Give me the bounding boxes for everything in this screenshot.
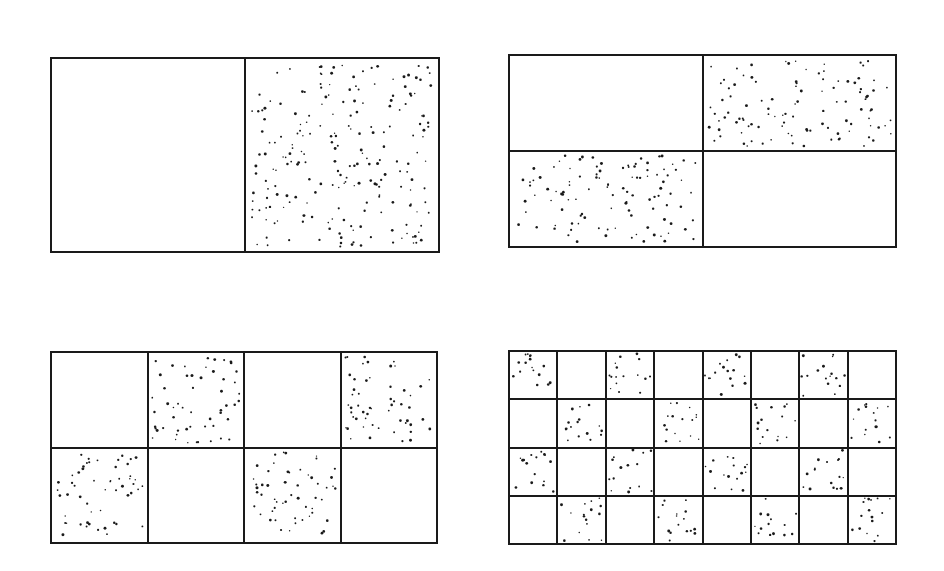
panel-top-left: [50, 57, 440, 253]
panel-bottom-right-canvas: [508, 350, 897, 545]
panel-top-right-canvas: [508, 54, 897, 248]
panel-bottom-left-canvas: [50, 351, 438, 544]
grid-dividers: [509, 55, 896, 247]
panel-bottom-left: [50, 351, 438, 544]
panel-top-left-canvas: [50, 57, 440, 253]
grid-dividers: [51, 352, 437, 543]
panel-top-right: [508, 54, 897, 248]
stipple-dots: [251, 65, 432, 248]
figure-root: [0, 0, 944, 571]
panel-bottom-right: [508, 350, 897, 545]
grid-dividers: [509, 351, 896, 544]
